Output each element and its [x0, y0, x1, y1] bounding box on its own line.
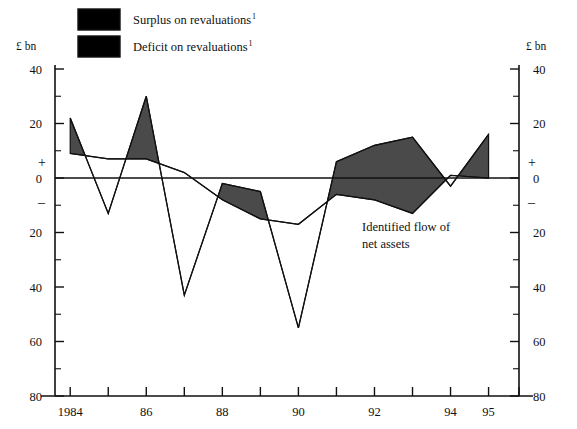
y-tick-label-right: 40 — [533, 281, 546, 295]
annotation-line-2: net assets — [362, 237, 410, 251]
y-tick-label-left: 20 — [30, 117, 43, 131]
deficit-area — [85, 156, 126, 214]
y-tick-label-left: 40 — [30, 281, 43, 295]
chart-canvas: Surplus on revaluations 1 Deficit on rev… — [0, 0, 577, 429]
legend-footnote-deficit: 1 — [249, 39, 253, 48]
deficit-area — [159, 164, 218, 296]
plus-sign-right: + — [528, 155, 536, 170]
y-tick-label-left: 40 — [30, 63, 43, 77]
legend-label-deficit: Deficit on revaluations — [133, 40, 248, 54]
legend-swatch-surplus — [78, 9, 120, 30]
x-tick-label: 94 — [444, 405, 457, 419]
chart-legend: Surplus on revaluations 1 Deficit on rev… — [78, 9, 256, 57]
y-tick-label-right: 20 — [533, 117, 546, 131]
y-tick-label-left: 20 — [30, 226, 43, 240]
y-tick-label-right: 80 — [533, 390, 546, 404]
y-tick-label-right: 40 — [533, 63, 546, 77]
x-tick-label: 90 — [292, 405, 305, 419]
y-tick-label-left: 60 — [30, 335, 43, 349]
plus-sign-left: + — [38, 155, 46, 170]
annotation-line-1: Identified flow of — [362, 220, 451, 234]
revaluations-line — [70, 96, 488, 328]
deficit-area — [268, 202, 327, 328]
x-tick-label: 86 — [140, 405, 153, 419]
series-lines — [70, 96, 488, 328]
legend-swatch-deficit — [78, 36, 120, 57]
y-tick-label-left: 80 — [30, 390, 43, 404]
x-tick-label: 92 — [368, 405, 381, 419]
x-tick-label: 88 — [216, 405, 229, 419]
unit-label-left: £ bn — [16, 40, 36, 52]
y-tick-label-right: 60 — [533, 335, 546, 349]
unit-label-right: £ bn — [526, 40, 546, 52]
minus-sign-left: – — [37, 195, 46, 210]
revaluations-chart: Surplus on revaluations 1 Deficit on rev… — [0, 0, 577, 429]
y-tick-label-right: 0 — [533, 172, 539, 186]
y-tick-label-left: 0 — [36, 172, 42, 186]
surplus-area — [327, 137, 445, 213]
minus-sign-right: – — [527, 195, 536, 210]
x-tick-label: 1984 — [58, 405, 84, 419]
legend-footnote-surplus: 1 — [252, 12, 256, 21]
x-tick-label: 95 — [482, 405, 495, 419]
area-fills — [70, 96, 488, 328]
y-tick-label-right: 20 — [533, 226, 546, 240]
legend-label-surplus: Surplus on revaluations — [133, 13, 251, 27]
